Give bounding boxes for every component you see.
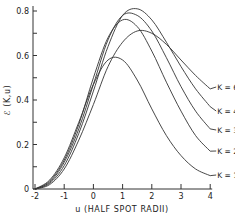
x-tick-label: 3 [178, 192, 183, 201]
y-tick-label: 0.6 [16, 52, 29, 61]
curve-label-k3: K = 3 [217, 126, 235, 135]
y-axis-title: ℰ (K,u) [3, 85, 12, 116]
plot-area [35, 9, 210, 189]
curve-k1 [35, 57, 210, 189]
x-tick-label: 4 [208, 192, 213, 201]
curve-label-k6: K = 6 [217, 83, 235, 92]
curve-label-k4: K = 4 [217, 107, 235, 116]
x-axis-title: u (HALF SPOT RADII) [75, 205, 169, 214]
x-tick-label: -1 [60, 192, 68, 201]
curve-k4 [35, 9, 210, 189]
y-tick-label: 0.4 [16, 96, 29, 105]
curve-label-leader [210, 175, 216, 176]
x-tick-label: 0 [91, 192, 96, 201]
curve-label-leader [210, 87, 216, 89]
y-tick-label: 0.2 [16, 141, 29, 150]
x-tick-label: 1 [120, 192, 125, 201]
curve-label-k2: K = 2 [217, 147, 235, 156]
x-axis: -2-101234 [31, 184, 213, 201]
y-tick-label: 0.8 [16, 7, 29, 16]
y-axis: 00.20.40.60.8 [16, 6, 37, 194]
curve-labels: K = 1K = 2K = 3K = 4K = 6 [210, 83, 235, 180]
curve-label-k1: K = 1 [217, 171, 235, 180]
y-tick-label: 0 [24, 185, 29, 194]
curve-label-leader [210, 129, 216, 130]
x-tick-label: 2 [149, 192, 154, 201]
chart: 00.20.40.60.8 -2-101234 K = 1K = 2K = 3K… [0, 0, 235, 220]
x-tick-label: -2 [31, 192, 39, 201]
curve-label-leader [210, 107, 216, 111]
